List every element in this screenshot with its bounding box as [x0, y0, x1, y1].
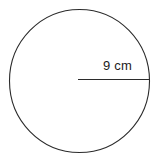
circle-radius-figure: 9 cm: [0, 0, 158, 162]
figure-canvas: [0, 0, 158, 162]
circle-outline: [10, 10, 150, 153]
radius-label: 9 cm: [103, 58, 132, 73]
